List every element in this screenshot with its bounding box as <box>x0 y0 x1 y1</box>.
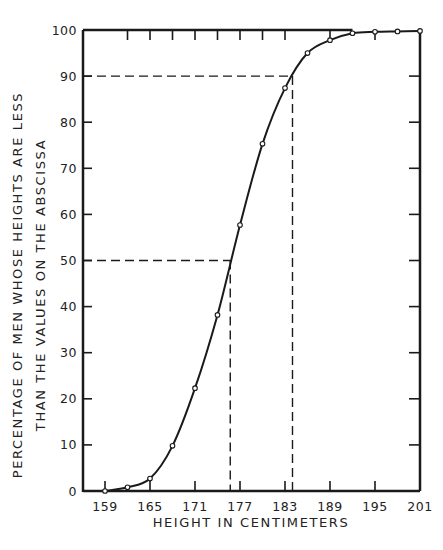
cumulative-height-chart: 0102030405060708090100 15916517117718318… <box>0 0 443 550</box>
y-tick-label: 50 <box>60 253 77 268</box>
x-tick-label: 171 <box>182 499 207 514</box>
y-tick-label: 70 <box>60 161 77 176</box>
data-point-marker <box>125 485 130 490</box>
y-tick-label: 60 <box>60 207 77 222</box>
x-tick-label: 189 <box>317 499 342 514</box>
x-tick-label: 195 <box>362 499 387 514</box>
dashed-guide-lines <box>83 76 293 491</box>
data-point-marker <box>395 29 400 34</box>
y-tick-label: 40 <box>60 299 77 314</box>
data-point-marker <box>283 86 288 91</box>
data-point-marker <box>238 223 243 228</box>
data-point-marker <box>170 444 175 449</box>
x-tick-label: 165 <box>137 499 162 514</box>
x-axis-ticks: 159165171177183189195201 <box>92 30 432 514</box>
x-tick-label: 159 <box>92 499 117 514</box>
data-point-marker <box>103 489 108 494</box>
y-axis-title-line2: THAN THE VALUES ON THE ABSCISSA <box>33 139 48 432</box>
data-point-marker <box>418 29 423 34</box>
y-axis-title-line1: PERCENTAGE OF MEN WHOSE HEIGHTS ARE LESS <box>10 92 25 478</box>
data-point-marker <box>350 31 355 36</box>
x-tick-label: 177 <box>227 499 252 514</box>
x-axis-title: HEIGHT IN CENTIMETERS <box>153 515 350 530</box>
cumulative-line <box>105 31 420 491</box>
y-tick-label: 90 <box>60 69 77 84</box>
y-tick-label: 0 <box>69 484 77 499</box>
data-point-marker <box>260 142 265 147</box>
y-axis-ticks: 0102030405060708090100 <box>52 23 420 499</box>
cumulative-curve <box>105 31 420 491</box>
x-tick-label: 201 <box>407 499 432 514</box>
x-tick-label: 183 <box>272 499 297 514</box>
data-point-marker <box>373 30 378 35</box>
data-point-marker <box>305 51 310 56</box>
y-tick-label: 20 <box>60 391 77 406</box>
y-tick-label: 10 <box>60 437 77 452</box>
data-point-marker <box>193 386 198 391</box>
data-points <box>103 29 423 494</box>
y-tick-label: 100 <box>52 23 77 38</box>
y-tick-label: 80 <box>60 115 77 130</box>
data-point-marker <box>328 38 333 43</box>
data-point-marker <box>215 313 220 318</box>
data-point-marker <box>148 476 153 481</box>
y-tick-label: 30 <box>60 345 77 360</box>
